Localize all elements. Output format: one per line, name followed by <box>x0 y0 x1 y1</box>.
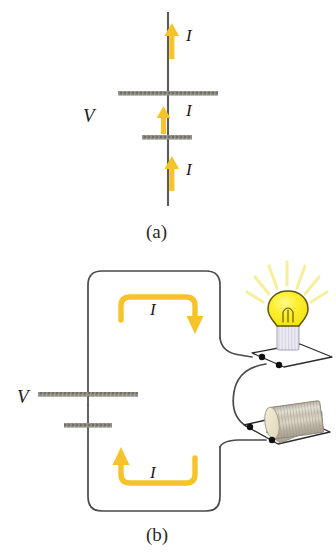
bulb-terminal-dot-2 <box>276 362 282 368</box>
resistor-cylinder <box>244 401 330 444</box>
cylinder-terminal-dot-1 <box>247 424 253 430</box>
wire-cylinder-to-loop <box>220 440 266 447</box>
circuit-wire-top <box>88 271 220 405</box>
label-voltage-a: V <box>83 105 95 127</box>
light-bulb <box>247 262 332 368</box>
circuit-figure <box>0 0 336 557</box>
battery-plate-long-b <box>38 392 138 397</box>
label-voltage-b: V <box>17 386 29 408</box>
wire-to-bulb <box>220 338 252 357</box>
label-current-b-bottom: I <box>150 463 156 483</box>
bulb-terminal-dot-1 <box>259 354 265 360</box>
label-current-b-top: I <box>150 300 156 320</box>
battery-plate-long <box>118 91 218 96</box>
current-arrow-loop-top <box>121 297 204 334</box>
panel-b <box>38 262 332 511</box>
panel-caption-a: (a) <box>146 221 167 243</box>
battery-plate-short <box>142 135 192 140</box>
circuit-wire-bottom <box>88 405 220 511</box>
cylinder-terminal-dot-2 <box>269 437 275 443</box>
current-arrow-top <box>164 23 179 59</box>
panel-caption-b: (b) <box>146 524 168 546</box>
label-current-a-top: I <box>186 26 192 46</box>
battery-plate-short-b <box>64 423 112 428</box>
current-arrow-bottom <box>164 156 179 191</box>
panel-a <box>118 12 218 206</box>
label-current-a-middle: I <box>186 101 192 121</box>
wire-bulb-to-cylinder <box>233 364 266 426</box>
label-current-a-bottom: I <box>186 160 192 180</box>
